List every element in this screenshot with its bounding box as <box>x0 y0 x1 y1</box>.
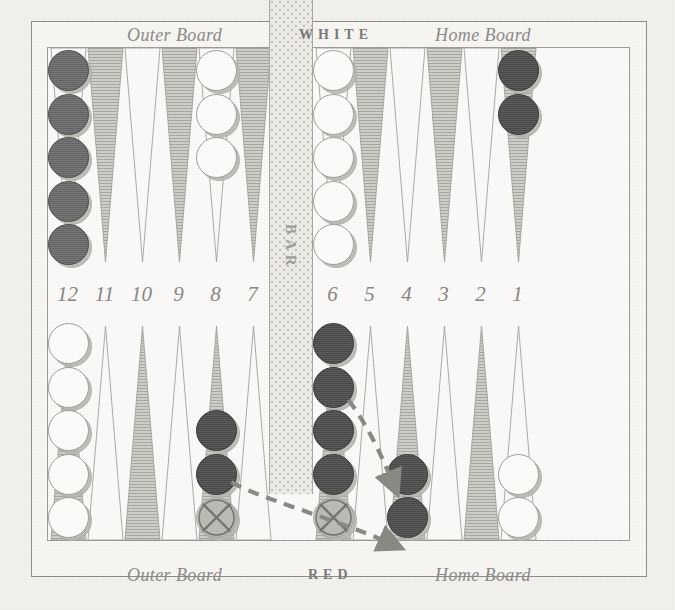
checker-x-marker <box>197 498 236 537</box>
checker-red[interactable] <box>48 50 89 91</box>
bottom-label-row: Outer Board RED Home Board <box>31 562 645 588</box>
bar[interactable]: BAR <box>269 0 313 494</box>
checker-white[interactable] <box>196 94 237 135</box>
checker-reddark[interactable] <box>313 454 354 495</box>
top-label-row: Outer Board WHITE Home Board <box>31 22 645 48</box>
checker-ghost[interactable] <box>196 497 237 538</box>
point-bottom-5[interactable] <box>352 322 389 540</box>
checker-ghost[interactable] <box>313 497 354 538</box>
checker-white[interactable] <box>313 137 354 178</box>
checker-reddark[interactable] <box>313 410 354 451</box>
point-top-4[interactable] <box>389 48 426 266</box>
point-bottom-3[interactable] <box>426 322 463 540</box>
checker-reddark[interactable] <box>313 367 354 408</box>
checker-white[interactable] <box>48 323 89 364</box>
checker-white[interactable] <box>48 454 89 495</box>
label-outer-board-bottom: Outer Board <box>127 565 222 586</box>
point-top-11[interactable] <box>87 48 124 266</box>
checker-white[interactable] <box>48 410 89 451</box>
point-top-9[interactable] <box>161 48 198 266</box>
checker-reddark[interactable] <box>498 50 539 91</box>
checker-reddark[interactable] <box>196 410 237 451</box>
point-top-3[interactable] <box>426 48 463 266</box>
bar-label: BAR <box>281 213 301 281</box>
point-top-10[interactable] <box>124 48 161 266</box>
checker-white[interactable] <box>196 137 237 178</box>
checker-red[interactable] <box>48 94 89 135</box>
label-red: RED <box>308 567 353 583</box>
label-home-board-top: Home Board <box>435 25 531 46</box>
label-outer-board-top: Outer Board <box>127 25 222 46</box>
checker-red[interactable] <box>48 181 89 222</box>
checker-reddark[interactable] <box>313 323 354 364</box>
checker-white[interactable] <box>313 94 354 135</box>
checker-white[interactable] <box>313 224 354 265</box>
bottom-half <box>48 322 631 540</box>
backgammon-diagram: Outer Board WHITE Home Board <box>0 0 675 610</box>
checker-red[interactable] <box>48 224 89 265</box>
point-top-5[interactable] <box>352 48 389 266</box>
checker-reddark[interactable] <box>387 454 428 495</box>
checker-white[interactable] <box>196 50 237 91</box>
point-bottom-10[interactable] <box>124 322 161 540</box>
point-bottom-11[interactable] <box>87 322 124 540</box>
checker-white[interactable] <box>498 454 539 495</box>
label-white: WHITE <box>299 27 373 43</box>
checker-reddark[interactable] <box>196 454 237 495</box>
point-top-7[interactable] <box>235 48 272 266</box>
point-bottom-2[interactable] <box>463 322 500 540</box>
checker-white[interactable] <box>48 367 89 408</box>
point-bottom-7[interactable] <box>235 322 272 540</box>
checker-x-marker <box>314 498 353 537</box>
point-bottom-9[interactable] <box>161 322 198 540</box>
point-top-2[interactable] <box>463 48 500 266</box>
top-half <box>48 48 631 266</box>
playing-surface <box>47 47 630 541</box>
checker-white[interactable] <box>498 497 539 538</box>
label-home-board-bottom: Home Board <box>435 565 531 586</box>
checker-red[interactable] <box>48 137 89 178</box>
checker-reddark[interactable] <box>387 497 428 538</box>
checker-white[interactable] <box>313 181 354 222</box>
checker-reddark[interactable] <box>498 94 539 135</box>
checker-white[interactable] <box>313 50 354 91</box>
checker-white[interactable] <box>48 497 89 538</box>
